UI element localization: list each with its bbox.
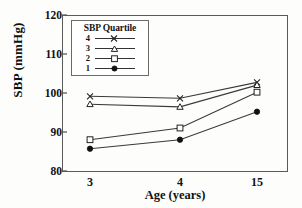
legend-label: 3	[80, 44, 90, 53]
legend-item-q2: 2	[72, 54, 148, 63]
legend-swatch-filled-circle	[95, 64, 135, 73]
marker-open-square	[87, 137, 93, 143]
marker-open-square	[254, 89, 260, 95]
legend-label: 2	[80, 54, 90, 63]
series-line-q1	[90, 112, 257, 149]
marker-open-square	[177, 125, 183, 131]
x-tick-label: 15	[242, 176, 272, 188]
markers-series-q1	[87, 109, 259, 151]
x-axis-title: Age (years)	[62, 188, 288, 203]
marker-filled-circle	[254, 109, 259, 114]
marker-filled-circle	[177, 137, 182, 142]
legend-title: SBP Quartile	[72, 23, 148, 33]
y-axis-ticks	[62, 15, 67, 171]
legend-swatch-open-triangle	[95, 44, 135, 53]
series-lines	[90, 82, 257, 148]
legend-item-q3: 3	[72, 44, 148, 53]
marker-filled-circle	[87, 146, 92, 151]
x-tick-label: 4	[165, 176, 195, 188]
legend-swatch-open-square	[95, 54, 135, 63]
series-line-q2	[90, 92, 257, 140]
legend-label: 4	[80, 34, 90, 43]
x-tick-label: 3	[75, 176, 105, 188]
legend-label: 1	[80, 64, 90, 73]
series-line-q4	[90, 82, 257, 98]
legend-item-q4: 4	[72, 34, 148, 43]
legend-item-q1: 1	[72, 64, 148, 73]
legend: SBP Quartile 4 3 2	[71, 20, 149, 76]
chart-figure: SBP (mmHg) 120 110 100 90 80	[0, 0, 302, 208]
legend-swatch-cross-x	[95, 34, 135, 43]
